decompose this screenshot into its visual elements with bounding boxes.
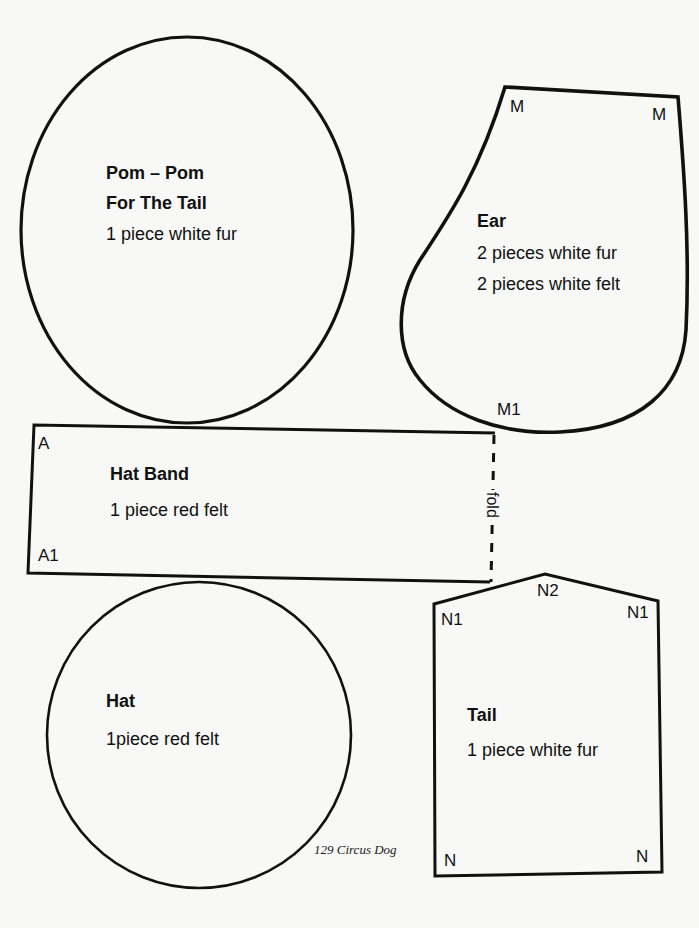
hat-instructions: 1piece red felt [106, 729, 219, 750]
ear-title: Ear [477, 211, 506, 232]
tail-mark-top-left: N1 [441, 610, 463, 630]
tail-title: Tail [467, 705, 497, 726]
fold-label: fold [483, 490, 501, 520]
tail-mark-bottom-right: N [636, 847, 648, 867]
pattern-outlines [0, 0, 699, 928]
tail-instructions: 1 piece white fur [467, 740, 598, 761]
ear-mark-bottom: M1 [497, 400, 521, 420]
tail-mark-top-right: N1 [627, 603, 649, 623]
pompom-instructions: 1 piece white fur [106, 224, 237, 245]
hat-band-mark-bottom-left: A1 [38, 546, 59, 566]
hat-band-mark-top-left: A [38, 434, 49, 454]
pattern-page: Pom – Pom For The Tail 1 piece white fur… [0, 0, 699, 928]
pompom-title-line2: For The Tail [106, 193, 207, 214]
hat-band-outline [28, 425, 495, 582]
hat-title: Hat [106, 691, 135, 712]
ear-instructions-line2: 2 pieces white felt [477, 274, 620, 295]
ear-instructions-line1: 2 pieces white fur [477, 243, 617, 264]
hat-band-instructions: 1 piece red felt [110, 500, 228, 521]
tail-mark-bottom-left: N [444, 851, 456, 871]
page-caption: 129 Circus Dog [314, 842, 397, 858]
ear-mark-top-left: M [510, 97, 524, 117]
ear-mark-top-right: M [652, 105, 666, 125]
hat-band-title: Hat Band [110, 464, 189, 485]
pompom-title-line1: Pom – Pom [106, 163, 204, 184]
tail-mark-top-center: N2 [537, 581, 559, 601]
